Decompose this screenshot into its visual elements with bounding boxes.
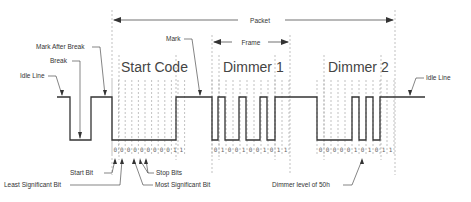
idle-line-right-label: Idle Line [426,74,451,81]
idle-line-right-leader [410,78,424,95]
msb-leader [134,160,153,185]
start-bit-callout: Start Bit [70,158,117,176]
start-code-title: Start Code [121,59,188,75]
bit-value: 0 [347,146,351,153]
frame-label: Frame [242,39,261,46]
idle-line-left-label: Idle Line [20,72,45,79]
mark-after-break-label: Mark After Break [36,43,85,50]
stop-bits-callout: Stop Bits [139,158,183,177]
signal-waveform [57,97,425,140]
mark-label: Mark [166,35,181,42]
lsb-arrow-icon [120,158,124,164]
bit-value: 0 [166,146,170,153]
bit-value: 0 [270,146,274,153]
idle-line-left-callout: Idle Line [20,72,64,96]
idle-line-right-arrow-icon [408,90,412,96]
lsb-callout: Least Significant Bit [4,158,124,189]
msb-label: Most Significant Bit [155,181,210,189]
bit-value: 1 [242,146,246,153]
stop-bits-label: Stop Bits [156,169,183,177]
lsb-label: Least Significant Bit [4,181,61,189]
break-arrow-icon [78,132,82,139]
bit-value: 0 [256,146,260,153]
bit-value: 1 [284,146,288,153]
bit-value: 1 [173,146,177,153]
bit-value: 0 [375,146,379,153]
bit-values: 000000000110100100101100000101011 [113,146,392,153]
bit-value: 1 [354,146,358,153]
bit-value: 0 [214,146,218,153]
break-callout: Break [50,57,82,139]
dimmer-level-leader [343,160,362,185]
mark-after-break-leader [92,47,105,95]
bit-value: 1 [389,146,393,153]
bit-value: 0 [113,146,117,153]
start-bit-arrow-icon [113,158,117,164]
bit-value: 0 [361,146,365,153]
bit-value: 0 [127,146,131,153]
frame-dimension: Frame [212,35,290,175]
bit-value: 1 [221,146,225,153]
bit-value: 0 [319,146,323,153]
idle-line-left-arrow-icon [60,90,64,96]
stop-bit2-arrow-icon [144,158,148,164]
packet-label: Packet [250,17,270,24]
dimmer-level-callout: Dimmer level of 50h [272,158,364,188]
mark-after-break-arrow-icon [103,90,107,96]
bit-value: 0 [140,146,144,153]
dimmer-level-label: Dimmer level of 50h [272,181,330,188]
bit-value: 1 [263,146,267,153]
dimmer1-title: Dimmer 1 [223,59,284,75]
dimmer2-title: Dimmer 2 [328,59,389,75]
bit-value: 0 [160,146,164,153]
idle-line-left-leader [48,76,62,95]
bit-value: 0 [333,146,337,153]
msb-arrow-icon [132,158,136,164]
start-bit-leader [104,160,115,173]
bit-value: 1 [382,146,386,153]
bit-value: 0 [326,146,330,153]
idle-line-right-callout: Idle Line [408,74,451,96]
bit-value: 0 [340,146,344,153]
bit-value: 0 [235,146,239,153]
dimmer-level-arrow-icon [360,158,364,164]
bit-value: 0 [133,146,137,153]
mark-after-break-callout: Mark After Break [36,43,107,96]
break-leader [72,61,80,138]
mark-arrow-icon [198,90,202,96]
bit-value: 0 [249,146,253,153]
bit-value: 0 [146,146,150,153]
break-label: Break [50,57,68,64]
bit-value: 1 [179,146,183,153]
bit-value: 1 [368,146,372,153]
dmx-timing-diagram: Packet Frame Start Code Dimmer 1 Dimmer … [0,0,471,202]
bit-value: 0 [153,146,157,153]
bit-value: 0 [120,146,124,153]
bit-value: 0 [228,146,232,153]
bit-value: 1 [277,146,281,153]
start-bit-label: Start Bit [70,169,93,176]
